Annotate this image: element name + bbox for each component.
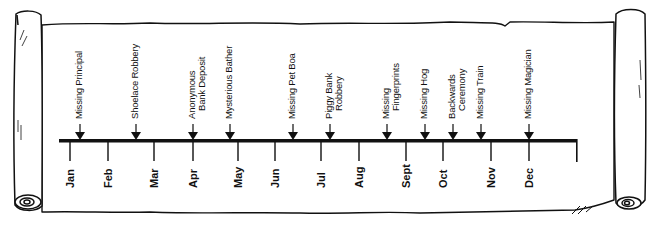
event-label-line: Ceremony [457, 69, 467, 119]
event-label-line: Shoelace Robbery [130, 44, 140, 119]
event-label: Missing Hog [419, 69, 429, 119]
event-label: Mysterious Bather [224, 46, 234, 119]
event-label: MissingFingerprints [381, 63, 401, 119]
event-label: Missing Pet Boa [287, 53, 297, 119]
event-label-line: Missing Hog [419, 69, 429, 119]
event-label-line: Robbery [334, 73, 344, 119]
event-label: Shoelace Robbery [130, 44, 140, 119]
event-label: Missing Train [475, 66, 485, 119]
event-label-line: Bank Deposit [197, 57, 207, 119]
event-label-line: Fingerprints [391, 63, 401, 119]
event-label-line: Missing Principal [74, 51, 84, 119]
event-label: Piggy BankRobbery [324, 73, 344, 119]
event-label: AnonymousBank Deposit [187, 57, 207, 119]
event-labels: Missing PrincipalShoelace RobberyAnonymo… [0, 0, 652, 226]
event-label-line: Mysterious Bather [224, 46, 234, 119]
event-label-line: Missing Magician [523, 49, 533, 119]
event-label-line: Missing Train [475, 66, 485, 119]
event-label: Missing Magician [523, 49, 533, 119]
event-label: Missing Principal [74, 51, 84, 119]
event-label-line: Missing Pet Boa [287, 53, 297, 119]
event-label: BackwardsCeremony [447, 69, 467, 119]
